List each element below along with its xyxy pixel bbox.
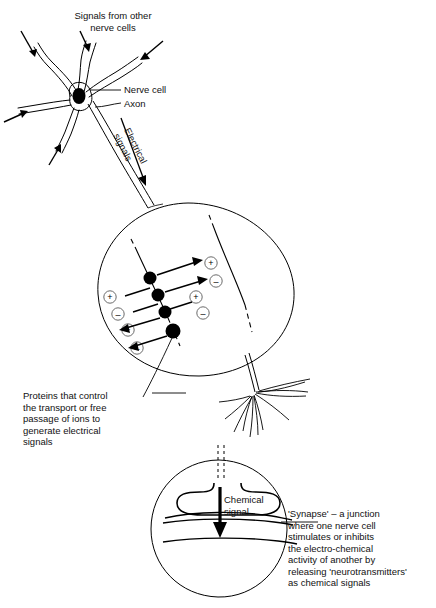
ion-negative: – — [197, 307, 209, 319]
ion-positive: + — [104, 291, 116, 303]
label-proteins-caption: Proteins that control the transport or f… — [23, 390, 183, 448]
dendrite-upper-left — [34, 43, 77, 96]
leader-proteins-caption — [143, 338, 172, 397]
svg-text:–: – — [200, 309, 205, 319]
svg-text:+: + — [107, 292, 112, 302]
channel-protein — [152, 289, 165, 302]
axon-terminal-branches — [219, 379, 310, 437]
title-signals-from-other-nerve-cells: Signals from other nerve cells — [48, 10, 178, 33]
leader-axon — [95, 103, 121, 107]
label-chemical-signal: Chemical signal — [224, 494, 264, 517]
nucleus — [73, 88, 86, 104]
svg-text:–: – — [115, 310, 120, 320]
channel-protein — [166, 324, 181, 339]
ion-negative: – — [210, 275, 222, 287]
channel-protein — [144, 272, 157, 285]
svg-text:–: – — [213, 277, 218, 287]
ion-positive: + — [190, 291, 202, 303]
membrane-line-right — [209, 215, 252, 332]
synapse-magnification-guides — [218, 445, 224, 480]
synaptic-cleft-lines — [163, 512, 297, 544]
label-synapse-caption: 'Synapse' – a junction where one nerve c… — [288, 508, 434, 589]
ion-transport-arrows — [119, 257, 208, 351]
channel-protein — [159, 306, 172, 319]
label-nerve-cell: Nerve cell — [124, 84, 166, 96]
svg-text:+: + — [208, 258, 213, 268]
ion-positive: + — [205, 257, 217, 269]
cleft-line-middle — [163, 519, 293, 525]
ion-negative: – — [112, 308, 124, 320]
postsynaptic-line — [163, 538, 297, 544]
magnified-membrane-circle — [98, 203, 294, 376]
label-axon: Axon — [124, 98, 146, 110]
svg-text:+: + — [193, 292, 198, 302]
